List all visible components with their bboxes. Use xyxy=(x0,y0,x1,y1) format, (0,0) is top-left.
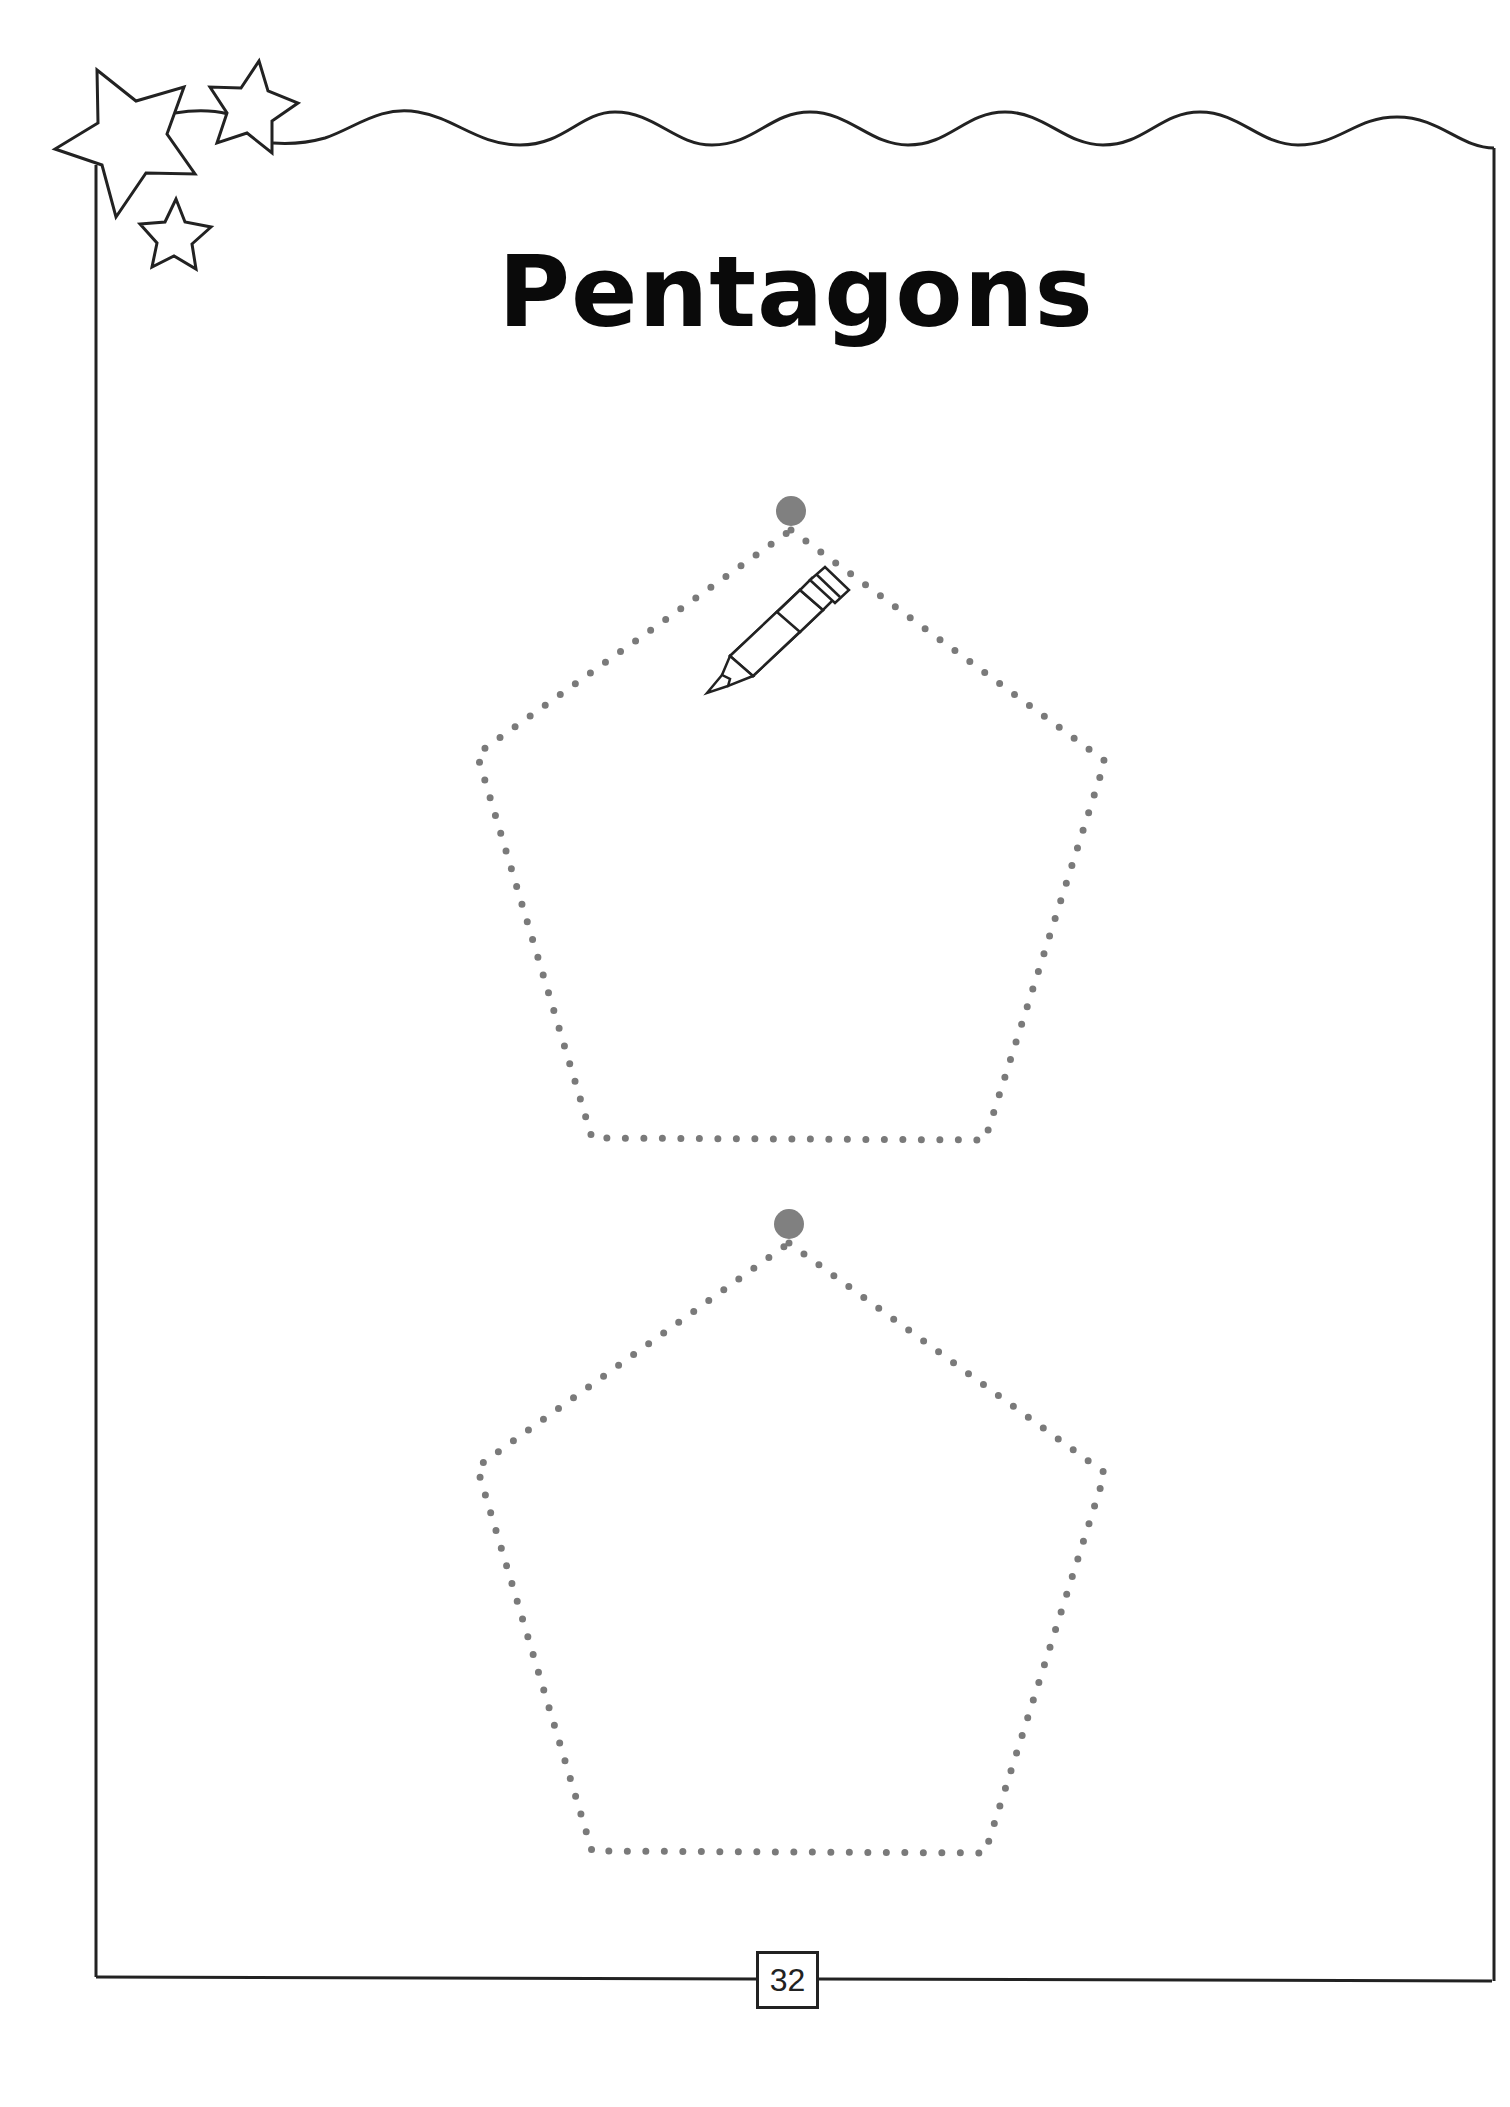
pentagon-trace-1[interactable] xyxy=(477,496,1105,1140)
page-number-badge: 32 xyxy=(756,1951,819,2009)
large-star-icon xyxy=(55,70,195,217)
start-dot xyxy=(774,1209,804,1239)
page-number: 32 xyxy=(770,1962,806,1999)
dotted-pentagon-outline xyxy=(477,1243,1105,1853)
pencil-icon xyxy=(707,567,849,693)
page-border xyxy=(96,111,1494,1981)
page-title: Pentagons xyxy=(0,243,1510,341)
pentagon-trace-2[interactable] xyxy=(477,1209,1105,1853)
start-dot xyxy=(776,496,806,526)
star-icons xyxy=(55,61,298,269)
wavy-top-border xyxy=(175,111,1494,148)
medium-star-icon xyxy=(210,61,298,153)
